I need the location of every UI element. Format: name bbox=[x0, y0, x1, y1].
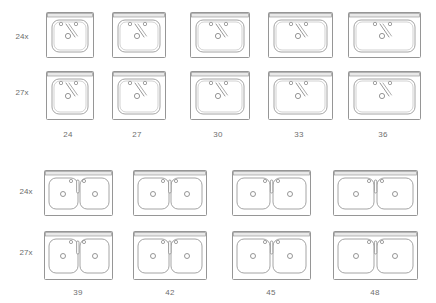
faucet-hole-right-icon bbox=[388, 81, 391, 84]
faucet-hole-right-icon bbox=[380, 179, 383, 182]
faucet-spout-icon bbox=[374, 180, 376, 193]
sink-unit-48x27-double[interactable] bbox=[334, 232, 418, 280]
row-label-27x-double: 27x bbox=[20, 248, 33, 257]
drain-icon bbox=[65, 33, 70, 38]
faucet-hole-left-icon bbox=[69, 240, 72, 243]
faucet-hole-right-icon bbox=[304, 22, 307, 25]
diagram-canvas: 24x 27x bbox=[0, 0, 436, 303]
drain-left-icon bbox=[251, 192, 256, 197]
drain-icon bbox=[215, 93, 220, 98]
faucet-hole-left-icon bbox=[367, 179, 370, 182]
col-label-48: 48 bbox=[370, 288, 380, 297]
drain-icon bbox=[134, 93, 139, 98]
drain-icon bbox=[134, 33, 139, 38]
faucet-hole-right-icon bbox=[388, 22, 391, 25]
drain-icon bbox=[295, 33, 300, 38]
col-label-36: 36 bbox=[378, 130, 388, 139]
col-label-30: 30 bbox=[213, 130, 223, 139]
faucet-hole-right-icon bbox=[224, 81, 227, 84]
drain-right-icon bbox=[288, 254, 293, 259]
faucet-hole-right-icon bbox=[74, 22, 77, 25]
sink-unit-45x27-double[interactable] bbox=[233, 232, 311, 280]
faucet-hole-right-icon bbox=[304, 81, 307, 84]
sink-unit-36x24[interactable] bbox=[349, 13, 421, 58]
faucet-hole-right-icon bbox=[276, 179, 279, 182]
faucet-hole-left-icon bbox=[69, 179, 72, 182]
faucet-hole-right-icon bbox=[276, 240, 279, 243]
section-double-bowl: 24x 27x bbox=[20, 171, 418, 298]
drain-right-icon bbox=[288, 192, 293, 197]
faucet-hole-left-icon bbox=[289, 81, 292, 84]
sink-unit-45x24-double[interactable] bbox=[233, 171, 311, 216]
sink-size-chart: 24x 27x bbox=[0, 0, 436, 303]
section-single-bowl: 24x 27x bbox=[16, 13, 421, 140]
faucet-hole-left-icon bbox=[263, 240, 266, 243]
drain-icon bbox=[379, 33, 384, 38]
faucet-hole-left-icon bbox=[289, 22, 292, 25]
faucet-hole-right-icon bbox=[82, 240, 85, 243]
faucet-hole-right-icon bbox=[74, 81, 77, 84]
sink-unit-30x24[interactable] bbox=[191, 13, 250, 58]
sink-unit-39x27-double[interactable] bbox=[45, 232, 113, 280]
sink-unit-27x27[interactable] bbox=[113, 72, 166, 120]
sink-unit-48x24-double[interactable] bbox=[334, 171, 418, 216]
faucet-hole-right-icon bbox=[143, 81, 146, 84]
sink-unit-27x24[interactable] bbox=[113, 13, 166, 58]
faucet-hole-left-icon bbox=[209, 22, 212, 25]
faucet-hole-left-icon bbox=[59, 81, 62, 84]
row-label-27x-single: 27x bbox=[16, 88, 29, 97]
sink-unit-24x27[interactable] bbox=[47, 72, 94, 120]
faucet-hole-left-icon bbox=[128, 81, 131, 84]
faucet-spout-icon bbox=[77, 241, 79, 254]
faucet-hole-left-icon bbox=[59, 22, 62, 25]
col-label-33: 33 bbox=[294, 130, 304, 139]
faucet-spout-icon bbox=[270, 241, 272, 254]
faucet-hole-right-icon bbox=[224, 22, 227, 25]
sink-unit-33x24[interactable] bbox=[269, 13, 333, 58]
drain-icon bbox=[295, 93, 300, 98]
row-label-24x-single: 24x bbox=[16, 32, 29, 41]
drain-right-icon bbox=[185, 192, 190, 197]
drain-left-icon bbox=[251, 254, 256, 259]
drain-left-icon bbox=[61, 254, 66, 259]
sink-unit-39x24-double[interactable] bbox=[45, 171, 113, 216]
col-label-45: 45 bbox=[266, 288, 276, 297]
drain-icon bbox=[379, 93, 384, 98]
drain-right-icon bbox=[393, 254, 398, 259]
drain-icon bbox=[65, 93, 70, 98]
faucet-hole-left-icon bbox=[161, 240, 164, 243]
faucet-hole-left-icon bbox=[209, 81, 212, 84]
faucet-hole-left-icon bbox=[263, 179, 266, 182]
faucet-spout-icon bbox=[374, 241, 376, 254]
faucet-hole-left-icon bbox=[367, 240, 370, 243]
row-label-24x-double: 24x bbox=[20, 187, 33, 196]
drain-right-icon bbox=[93, 192, 98, 197]
faucet-hole-left-icon bbox=[373, 22, 376, 25]
sink-unit-24x24[interactable] bbox=[47, 13, 94, 58]
sink-unit-36x27[interactable] bbox=[349, 72, 421, 120]
faucet-hole-right-icon bbox=[174, 240, 177, 243]
drain-left-icon bbox=[151, 254, 156, 259]
faucet-spout-icon bbox=[169, 241, 171, 254]
col-label-39: 39 bbox=[73, 288, 83, 297]
faucet-hole-right-icon bbox=[174, 179, 177, 182]
faucet-spout-icon bbox=[77, 180, 79, 193]
faucet-hole-right-icon bbox=[82, 179, 85, 182]
col-label-24: 24 bbox=[63, 130, 73, 139]
sink-unit-30x27[interactable] bbox=[191, 72, 250, 120]
drain-left-icon bbox=[354, 192, 359, 197]
drain-left-icon bbox=[61, 192, 66, 197]
sink-unit-33x27[interactable] bbox=[269, 72, 333, 120]
faucet-hole-left-icon bbox=[128, 22, 131, 25]
drain-right-icon bbox=[393, 192, 398, 197]
faucet-hole-right-icon bbox=[143, 22, 146, 25]
drain-left-icon bbox=[151, 192, 156, 197]
faucet-hole-right-icon bbox=[380, 240, 383, 243]
col-label-42: 42 bbox=[165, 288, 175, 297]
drain-right-icon bbox=[185, 254, 190, 259]
sink-unit-42x24-double[interactable] bbox=[134, 171, 207, 216]
sink-unit-42x27-double[interactable] bbox=[134, 232, 207, 280]
drain-right-icon bbox=[93, 254, 98, 259]
faucet-spout-icon bbox=[169, 180, 171, 193]
faucet-hole-left-icon bbox=[161, 179, 164, 182]
